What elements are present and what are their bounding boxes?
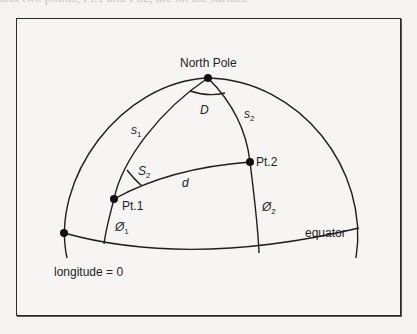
latitude-1-label: Ø1: [114, 220, 129, 236]
point-1-marker: [110, 195, 118, 203]
longitude-zero-point: [60, 229, 68, 237]
angle-D-label: D: [200, 103, 209, 117]
longitude-zero-label: longitude = 0: [54, 265, 123, 279]
north-pole-point: [204, 74, 212, 82]
north-pole-label: North Pole: [180, 56, 237, 70]
point-2-marker: [246, 158, 254, 166]
point-1-label: Pt.1: [122, 199, 144, 213]
point-2-label: Pt.2: [256, 155, 278, 169]
spherical-geometry-diagram: North Pole D s1 s2 S2 d Pt.1 Pt.2 Ø1 Ø2 …: [0, 0, 417, 334]
distance-d-label: d: [182, 176, 189, 190]
arc-s2-label: s2: [244, 107, 255, 123]
latitude-2-label: Ø2: [261, 200, 276, 216]
arc-s1-label: s1: [131, 123, 142, 139]
angle-S2-label: S2: [138, 164, 151, 180]
equator-label: equator: [305, 226, 346, 240]
